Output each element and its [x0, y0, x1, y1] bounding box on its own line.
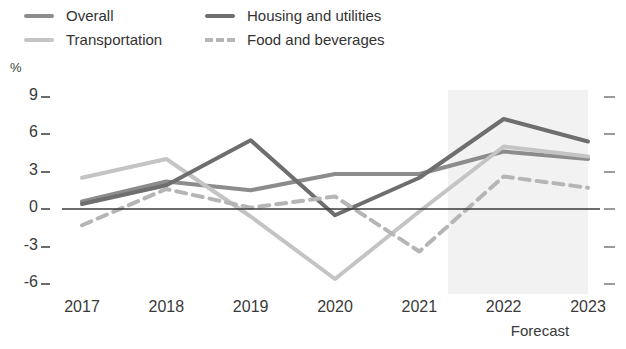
y-axis-tick-label: 6 [0, 123, 38, 141]
y-axis-right-tick-mark [604, 171, 615, 173]
x-axis-tick-label: 2021 [384, 298, 454, 316]
x-axis-tick-label: 2017 [47, 298, 117, 316]
y-axis-tick-label: 9 [0, 86, 38, 104]
y-axis-tick-label: 0 [0, 198, 38, 216]
x-axis-tick-label: 2018 [131, 298, 201, 316]
y-axis-right-tick-mark [604, 96, 615, 98]
forecast-caption: Forecast [470, 322, 610, 339]
y-axis-tick-mark [41, 246, 50, 248]
y-axis-tick-label: 3 [0, 161, 38, 179]
y-axis-tick-mark [41, 208, 50, 210]
y-axis-right-tick-mark [604, 283, 615, 285]
y-axis-tick-mark [41, 96, 50, 98]
series-line [82, 119, 588, 215]
chart-root: Overall Transportation Housing and utili… [0, 0, 626, 349]
x-axis-tick-label: 2019 [216, 298, 286, 316]
x-axis-tick-label: 2023 [553, 298, 623, 316]
plot-area [0, 0, 626, 349]
y-axis-right-tick-mark [604, 246, 615, 248]
y-axis-tick-label: -3 [0, 236, 38, 254]
x-axis-tick-label: 2022 [469, 298, 539, 316]
chart-lines [0, 0, 626, 349]
y-axis-tick-mark [41, 283, 50, 285]
y-axis-tick-label: -6 [0, 273, 38, 291]
x-axis-tick-label: 2020 [300, 298, 370, 316]
y-axis-right-tick-mark [604, 208, 615, 210]
y-axis-tick-mark [41, 171, 50, 173]
y-axis-right-tick-mark [604, 133, 615, 135]
y-axis-tick-mark [41, 133, 50, 135]
